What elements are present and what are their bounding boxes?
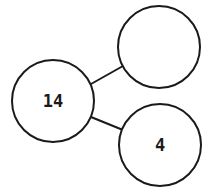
whole-circle: 14 xyxy=(12,60,94,142)
bottom-part-circle: 4 xyxy=(119,104,201,186)
whole-value: 14 xyxy=(43,91,63,111)
bottom-part-value: 4 xyxy=(155,135,165,155)
number-bond-diagram: 14 4 xyxy=(0,0,213,193)
connector-whole-to-bottom-part xyxy=(91,117,123,130)
top-part-circle[interactable] xyxy=(118,6,200,88)
connector-whole-to-top-part xyxy=(91,66,123,84)
